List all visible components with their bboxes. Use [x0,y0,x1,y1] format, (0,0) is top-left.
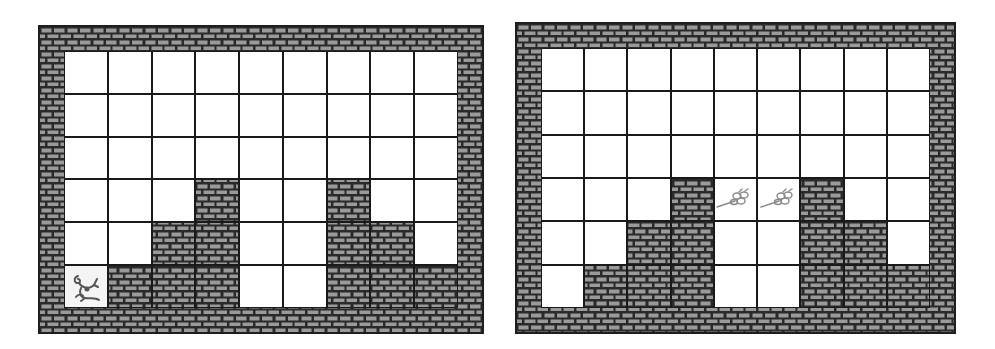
flower-cell[interactable] [757,178,800,221]
wall-cell [370,222,414,265]
open-cell[interactable] [714,265,757,308]
open-cell[interactable] [195,51,239,94]
open-cell[interactable] [757,48,800,91]
open-cell[interactable] [627,48,670,91]
open-cell[interactable] [414,222,458,265]
open-cell[interactable] [800,135,843,178]
open-cell[interactable] [195,94,239,137]
open-cell[interactable] [239,137,283,180]
open-cell[interactable] [64,222,108,265]
open-cell[interactable] [844,178,887,221]
open-cell[interactable] [757,265,800,308]
open-cell[interactable] [152,94,196,137]
open-cell[interactable] [64,94,108,137]
open-cell[interactable] [757,221,800,264]
wall-cell [800,178,843,221]
open-cell[interactable] [239,222,283,265]
open-cell[interactable] [887,178,930,221]
open-cell[interactable] [327,137,371,180]
open-cell[interactable] [108,94,152,137]
open-cell[interactable] [541,48,584,91]
wall-cell [844,221,887,264]
wall-cell [671,221,714,264]
open-cell[interactable] [239,51,283,94]
open-cell[interactable] [541,265,584,308]
open-cell[interactable] [195,137,239,180]
open-cell[interactable] [108,179,152,222]
wall-cell [627,265,670,308]
open-cell[interactable] [584,91,627,134]
open-cell[interactable] [108,222,152,265]
open-cell[interactable] [671,135,714,178]
open-cell[interactable] [239,94,283,137]
wall-cell [108,265,152,308]
open-cell[interactable] [414,51,458,94]
open-cell[interactable] [584,221,627,264]
open-cell[interactable] [64,51,108,94]
open-cell[interactable] [370,137,414,180]
open-cell[interactable] [714,48,757,91]
open-cell[interactable] [152,51,196,94]
mouse-cell[interactable] [64,265,108,308]
open-cell[interactable] [152,137,196,180]
open-cell[interactable] [239,179,283,222]
wall-cell [414,265,458,308]
flower-icon [758,179,799,220]
open-cell[interactable] [584,135,627,178]
open-cell[interactable] [108,137,152,180]
open-cell[interactable] [671,91,714,134]
open-cell[interactable] [541,91,584,134]
open-cell[interactable] [64,137,108,180]
open-cell[interactable] [800,48,843,91]
wall-cell [671,178,714,221]
open-cell[interactable] [370,179,414,222]
open-cell[interactable] [327,94,371,137]
open-cell[interactable] [887,91,930,134]
open-cell[interactable] [584,48,627,91]
open-cell[interactable] [414,179,458,222]
open-cell[interactable] [627,178,670,221]
wall-cell [370,265,414,308]
wall-cell [327,265,371,308]
open-cell[interactable] [627,135,670,178]
open-cell[interactable] [283,222,327,265]
open-cell[interactable] [887,221,930,264]
open-cell[interactable] [414,137,458,180]
open-cell[interactable] [283,137,327,180]
flower-cell[interactable] [714,178,757,221]
open-cell[interactable] [844,48,887,91]
open-cell[interactable] [541,221,584,264]
open-cell[interactable] [671,48,714,91]
open-cell[interactable] [152,179,196,222]
open-cell[interactable] [757,91,800,134]
mouse-icon[interactable] [65,266,107,307]
open-cell[interactable] [757,135,800,178]
open-cell[interactable] [627,91,670,134]
open-cell[interactable] [541,178,584,221]
open-cell[interactable] [714,91,757,134]
open-cell[interactable] [800,91,843,134]
open-cell[interactable] [108,51,152,94]
open-cell[interactable] [541,135,584,178]
open-cell[interactable] [283,265,327,308]
open-cell[interactable] [283,94,327,137]
open-cell[interactable] [584,178,627,221]
wall-cell [195,222,239,265]
open-cell[interactable] [370,51,414,94]
open-cell[interactable] [714,135,757,178]
wall-cell [195,265,239,308]
open-cell[interactable] [370,94,414,137]
open-cell[interactable] [844,135,887,178]
open-cell[interactable] [844,91,887,134]
open-cell[interactable] [239,265,283,308]
open-cell[interactable] [714,221,757,264]
left-board [38,25,484,334]
open-cell[interactable] [283,179,327,222]
open-cell[interactable] [887,48,930,91]
open-cell[interactable] [414,94,458,137]
open-cell[interactable] [64,179,108,222]
open-cell[interactable] [887,135,930,178]
open-cell[interactable] [327,51,371,94]
wall-cell [584,265,627,308]
open-cell[interactable] [283,51,327,94]
